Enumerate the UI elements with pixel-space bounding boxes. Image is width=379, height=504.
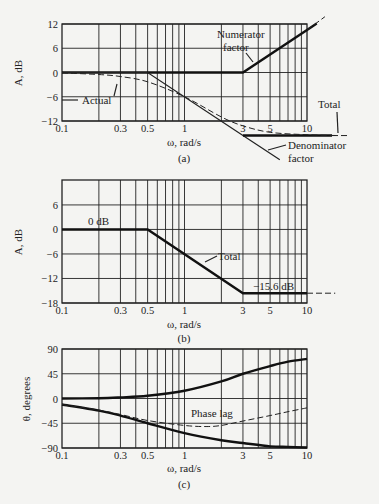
- x-tick-label: 5: [267, 450, 272, 461]
- x-tick-label: 10: [302, 305, 313, 316]
- plot-a-y-label: A, dB: [12, 60, 24, 86]
- x-tick-label: 10: [302, 123, 313, 134]
- denominator-arrow: [268, 145, 286, 150]
- x-tick-label: 1: [182, 305, 187, 316]
- plot-b-total-magnitude: 60−6−12−18 0.10.30.513510 A, dB ω, rad/s…: [12, 180, 335, 345]
- phase-lag-label: Phase lag: [191, 407, 233, 419]
- numerator-factor-label-2: factor: [223, 41, 249, 53]
- denominator-factor-label-2: factor: [288, 152, 314, 164]
- numerator-arrow: [246, 53, 253, 62]
- y-tick-label: −45: [42, 418, 58, 429]
- x-tick-label: 3: [240, 450, 245, 461]
- total-arrow: [337, 112, 338, 133]
- plot-c-caption: (c): [178, 478, 191, 491]
- numerator-extension: [307, 17, 325, 30]
- plot-a-caption: (a): [178, 152, 191, 165]
- plot-c-phase: 90450−45−90 0.10.30.513510 θ, degrees ω,…: [20, 344, 312, 491]
- x-tick-label: 0.3: [114, 450, 127, 461]
- y-tick-label: −6: [47, 249, 58, 260]
- y-tick-label: −12: [42, 273, 58, 284]
- y-tick-label: 0: [53, 394, 58, 405]
- x-tick-label: 1: [182, 450, 187, 461]
- total-arrow: [205, 256, 217, 262]
- x-tick-label: 0.5: [141, 450, 154, 461]
- plot-b-curves: [62, 229, 335, 293]
- plot-a-x-label: ω, rad/s: [167, 136, 201, 148]
- plot-c-y-ticks: 90450−45−90: [42, 344, 58, 454]
- plot-b-x-label: ω, rad/s: [167, 318, 201, 330]
- y-tick-label: 6: [53, 200, 58, 211]
- x-tick-label: 0.3: [114, 305, 127, 316]
- x-tick-label: 0.1: [55, 305, 68, 316]
- y-tick-label: 0: [53, 68, 58, 79]
- x-tick-label: 0.1: [55, 450, 68, 461]
- plot-b-x-ticks: 0.10.30.513510: [55, 305, 312, 316]
- x-tick-label: 5: [267, 123, 272, 134]
- x-tick-label: 3: [240, 305, 245, 316]
- y-tick-label: 90: [48, 344, 59, 355]
- actual-arrow: [114, 84, 117, 96]
- total-label-b: Total: [218, 250, 240, 262]
- x-tick-label: 0.5: [141, 305, 154, 316]
- y-tick-label: 0: [53, 224, 58, 235]
- x-tick-label: 0.3: [114, 123, 127, 134]
- plot-c-x-label: ω, rad/s: [167, 462, 201, 474]
- plot-b-y-label: A, dB: [12, 229, 24, 255]
- x-tick-label: 10: [302, 450, 313, 461]
- actual-label: Actual: [82, 94, 111, 106]
- bode-figure: 1260−6−12 0.10.30.513510 A, dB ω, rad/s …: [0, 0, 379, 504]
- x-tick-label: 0.1: [55, 123, 68, 134]
- plot-c-y-label: θ, degrees: [20, 377, 32, 421]
- plot-a-y-ticks: 1260−6−12: [42, 19, 58, 127]
- plot-b-caption: (b): [178, 332, 191, 345]
- y-tick-label: 12: [48, 19, 59, 30]
- x-tick-label: 0.5: [141, 123, 154, 134]
- plot-a-magnitude-factors: 1260−6−12 0.10.30.513510 A, dB ω, rad/s …: [12, 17, 349, 165]
- plot-c-x-ticks: 0.10.30.513510: [55, 450, 312, 461]
- y-tick-label: −6: [47, 92, 58, 103]
- x-tick-label: 1: [182, 123, 187, 134]
- plot-a-x-ticks: 0.10.30.513510: [55, 123, 312, 134]
- total-label-a: Total: [318, 98, 340, 110]
- x-tick-label: 5: [267, 305, 272, 316]
- zero-db-label: 0 dB: [88, 215, 109, 227]
- y-tick-label: 6: [53, 43, 58, 54]
- x-tick-label: 3: [240, 123, 245, 134]
- final-db-label: −15.6 dB: [253, 280, 294, 292]
- plot-b-y-ticks: 60−6−12−18: [42, 200, 58, 309]
- denominator-factor-label-1: Denominator: [288, 139, 346, 151]
- y-tick-label: 45: [48, 369, 59, 380]
- numerator-factor-label-1: Numerator: [217, 28, 265, 40]
